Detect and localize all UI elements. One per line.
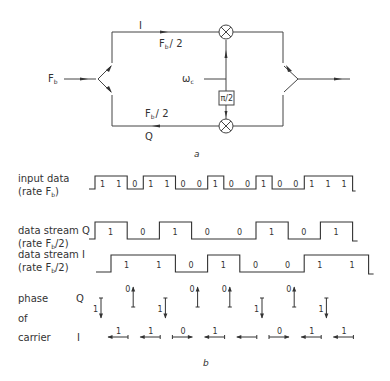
bit-label: 0 <box>245 180 250 189</box>
i-phase-arrows: 1101011 <box>108 327 353 339</box>
q-stream-label: data stream Q <box>18 225 90 236</box>
q-phase-value: 1 <box>93 305 98 314</box>
bit-label: 0 <box>140 228 145 237</box>
q-branch-label: Q <box>145 131 153 142</box>
phase-q-label: Q <box>76 293 84 304</box>
input-data-rate: (rate Fb) <box>18 186 59 198</box>
i-branch-rate: Fb/ 2 <box>159 38 183 50</box>
i-phase-value: 1 <box>148 327 153 336</box>
bit-label: 1 <box>173 228 178 237</box>
arrow-icon <box>160 31 168 34</box>
of-label: of <box>18 313 28 324</box>
phase-label: phase <box>18 293 48 304</box>
bit-label: 0 <box>229 180 234 189</box>
arrow-icon <box>106 65 112 72</box>
caption-a: a <box>194 149 200 159</box>
q-branch-rate: Fb/ 2 <box>145 108 169 120</box>
modulator-block-diagram: Fb I Fb/ 2 Q Fb/ 2 ωc <box>48 20 350 159</box>
phase-i-label: I <box>77 332 80 343</box>
lower-output-wire <box>233 95 283 126</box>
i-branch-label: I <box>139 20 142 31</box>
bit-label: 1 <box>261 180 266 189</box>
bit-label: 1 <box>124 261 129 270</box>
upper-output-wire <box>233 32 283 63</box>
q-phase-value: 1 <box>254 305 259 314</box>
i-phase-value: 1 <box>213 327 218 336</box>
bit-label: 0 <box>253 261 258 270</box>
caption-b: b <box>203 358 209 368</box>
q-phase-arrows: 10100101 <box>93 285 328 318</box>
bit-label: 1 <box>116 180 121 189</box>
bit-label: 0 <box>181 180 186 189</box>
bit-label: 0 <box>285 261 290 270</box>
combiner-lower <box>284 79 298 92</box>
i-stream-waveform: 11010011 <box>96 255 374 274</box>
bit-label: 1 <box>221 261 226 270</box>
bit-label: 0 <box>237 228 242 237</box>
input-data-label: input data <box>18 173 69 184</box>
i-phase-value: 1 <box>116 327 121 336</box>
q-phase-value: 0 <box>190 285 195 294</box>
bit-label: 1 <box>309 180 314 189</box>
input-data-waveform: 1101100100100111 <box>89 176 356 191</box>
q-phase-value: 0 <box>286 285 291 294</box>
bit-label: 0 <box>301 228 306 237</box>
bit-label: 1 <box>334 228 339 237</box>
input-label-fb: Fb <box>48 73 58 85</box>
bit-label: 1 <box>100 180 105 189</box>
q-phase-value: 1 <box>318 305 323 314</box>
i-phase-value: 0 <box>180 327 185 336</box>
q-phase-value: 0 <box>125 285 130 294</box>
bit-label: 1 <box>317 261 322 270</box>
bit-label: 1 <box>148 180 153 189</box>
bit-label: 1 <box>164 180 169 189</box>
upper-mixer-icon <box>219 25 233 39</box>
bit-label: 1 <box>269 228 274 237</box>
q-phase-value: 1 <box>157 305 162 314</box>
bit-label: 1 <box>213 180 218 189</box>
bit-label: 1 <box>350 261 355 270</box>
combiner-upper <box>284 66 298 79</box>
bit-label: 1 <box>156 261 161 270</box>
bit-label: 0 <box>197 180 202 189</box>
i-stream-rate: (rate Fb/2) <box>18 262 69 274</box>
arrow-icon <box>106 86 112 93</box>
bit-label: 0 <box>189 261 194 270</box>
carrier-label-b: carrier <box>18 332 52 343</box>
i-phase-value: 1 <box>309 327 314 336</box>
bit-label: 1 <box>108 228 113 237</box>
bit-label: 1 <box>342 180 347 189</box>
arrow-icon <box>334 78 342 81</box>
arrow-icon <box>225 50 228 58</box>
lower-mixer-icon <box>219 119 233 133</box>
timing-diagram: input data (rate Fb) data stream Q (rate… <box>18 173 374 368</box>
arrow-icon <box>225 111 228 117</box>
bit-label: 0 <box>293 180 298 189</box>
qpsk-figure: Fb I Fb/ 2 Q Fb/ 2 ωc <box>0 0 390 381</box>
arrow-icon <box>152 125 160 128</box>
bit-label: 0 <box>205 228 210 237</box>
i-stream-label: data stream I <box>18 249 85 260</box>
carrier-label: ωc <box>182 73 194 85</box>
bit-label: 0 <box>132 180 137 189</box>
q-stream-waveform: 10100101 <box>89 222 358 241</box>
i-phase-value: 0 <box>277 327 282 336</box>
i-phase-value: 1 <box>341 327 346 336</box>
bit-label: 1 <box>325 180 330 189</box>
bit-label: 0 <box>277 180 282 189</box>
arrow-icon <box>80 78 88 81</box>
q-phase-value: 0 <box>222 285 227 294</box>
phase-shifter-label: π/2 <box>221 94 234 103</box>
